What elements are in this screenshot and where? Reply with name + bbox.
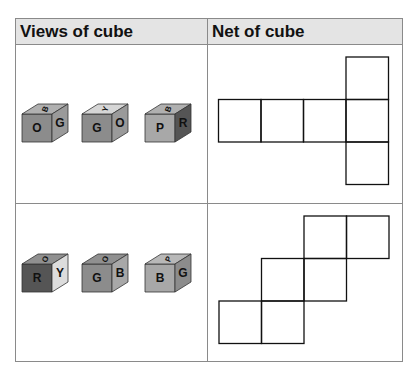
cube-front-letter: R: [33, 271, 42, 285]
cube-diagrams: OGBGOYPRBRYOGBOBGP: [0, 0, 419, 376]
cube-view-2-3: BGP: [145, 254, 191, 292]
cube-right-letter: O: [115, 116, 124, 130]
cube-view-2-2: GBO: [82, 254, 128, 292]
cube-front-letter: B: [156, 271, 165, 285]
cube-view-1-2: GOY: [82, 104, 128, 142]
cube-view-1-3: PRB: [145, 104, 191, 142]
cube-right-letter: Y: [56, 266, 64, 280]
cube-front-letter: P: [156, 121, 164, 135]
cube-right-letter: R: [179, 116, 188, 130]
cube-right-letter: G: [178, 266, 187, 280]
cube-view-2-1: RYO: [22, 254, 68, 292]
net-2: [219, 216, 389, 344]
cube-right-letter: G: [55, 116, 64, 130]
net-1: [219, 57, 389, 185]
cube-front-letter: O: [32, 121, 41, 135]
cube-front-letter: G: [92, 271, 101, 285]
cube-front-letter: G: [92, 121, 101, 135]
cube-view-1-1: OGB: [22, 104, 68, 142]
cube-right-letter: B: [116, 266, 125, 280]
